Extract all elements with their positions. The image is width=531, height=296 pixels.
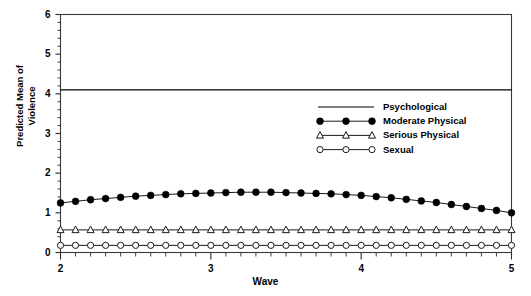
marker-open-circle	[373, 242, 379, 248]
marker-open-triangle	[222, 226, 229, 233]
marker-open-circle	[253, 242, 259, 248]
x-axis-tick-label: 2	[49, 264, 73, 274]
marker-open-triangle	[478, 226, 485, 233]
marker-filled-circle	[418, 198, 425, 205]
marker-open-triangle	[283, 226, 290, 233]
y-axis-tick-label: 4	[29, 89, 51, 99]
x-axis-tick-label: 3	[199, 264, 223, 274]
marker-open-triangle	[508, 226, 515, 233]
marker-filled-circle	[508, 209, 515, 216]
marker-open-triangle	[448, 226, 455, 233]
marker-filled-circle	[192, 190, 199, 197]
marker-open-circle	[178, 242, 184, 248]
marker-filled-circle	[369, 118, 376, 125]
plot-area	[0, 0, 531, 296]
marker-open-triangle	[463, 226, 470, 233]
marker-filled-circle	[373, 193, 380, 200]
marker-open-triangle	[328, 226, 335, 233]
marker-filled-circle	[403, 196, 410, 203]
marker-open-circle	[268, 242, 274, 248]
series-moderate-physical	[57, 189, 515, 216]
marker-open-circle	[478, 242, 484, 248]
marker-filled-circle	[388, 194, 395, 201]
marker-open-triangle	[343, 226, 350, 233]
marker-open-circle	[388, 242, 394, 248]
marker-filled-circle	[298, 190, 305, 197]
marker-open-circle	[508, 242, 514, 248]
marker-open-circle	[448, 242, 454, 248]
marker-filled-circle	[317, 118, 324, 125]
marker-open-circle	[103, 242, 109, 248]
legend-label: Serious Physical	[383, 129, 459, 140]
marker-open-triangle	[132, 226, 139, 233]
marker-filled-circle	[448, 201, 455, 208]
marker-filled-circle	[207, 190, 214, 197]
marker-open-triangle	[207, 226, 214, 233]
marker-open-circle	[298, 242, 304, 248]
legend-label: Moderate Physical	[383, 115, 466, 126]
series-serious-physical	[57, 226, 515, 233]
marker-open-circle	[418, 242, 424, 248]
marker-open-triangle	[373, 226, 380, 233]
legend-item-moderate-physical	[317, 118, 376, 125]
marker-open-circle	[208, 242, 214, 248]
marker-open-triangle	[317, 132, 324, 139]
y-axis-tick-label: 0	[29, 248, 51, 258]
legend-label: Psychological	[383, 101, 447, 112]
marker-filled-circle	[72, 198, 79, 205]
marker-open-circle	[57, 242, 63, 248]
marker-filled-circle	[102, 195, 109, 202]
marker-open-circle	[163, 242, 169, 248]
marker-open-circle	[283, 242, 289, 248]
marker-filled-circle	[222, 189, 229, 196]
legend-item-sexual	[317, 147, 375, 153]
marker-filled-circle	[343, 191, 350, 198]
marker-open-circle	[493, 242, 499, 248]
legend-label: Sexual	[383, 144, 414, 155]
marker-open-triangle	[298, 226, 305, 233]
marker-open-triangle	[493, 226, 500, 233]
marker-open-triangle	[102, 226, 109, 233]
marker-open-triangle	[57, 226, 64, 233]
x-axis-tick-label: 4	[349, 264, 373, 274]
y-axis-tick-label: 1	[29, 208, 51, 218]
marker-filled-circle	[147, 192, 154, 199]
marker-open-circle	[433, 242, 439, 248]
marker-open-circle	[313, 242, 319, 248]
marker-open-triangle	[267, 226, 274, 233]
marker-open-circle	[148, 242, 154, 248]
marker-filled-circle	[238, 189, 245, 196]
marker-filled-circle	[253, 189, 260, 196]
marker-filled-circle	[493, 207, 500, 214]
marker-open-circle	[343, 242, 349, 248]
marker-open-triangle	[343, 132, 350, 139]
marker-filled-circle	[283, 189, 290, 196]
marker-filled-circle	[268, 189, 275, 196]
marker-open-circle	[238, 242, 244, 248]
marker-filled-circle	[328, 190, 335, 197]
marker-filled-circle	[358, 192, 365, 199]
marker-open-triangle	[418, 226, 425, 233]
marker-open-circle	[223, 242, 229, 248]
marker-open-triangle	[72, 226, 79, 233]
marker-open-triangle	[117, 226, 124, 233]
marker-open-circle	[369, 147, 375, 153]
marker-open-circle	[118, 242, 124, 248]
marker-filled-circle	[177, 190, 184, 197]
marker-open-circle	[358, 242, 364, 248]
marker-open-triangle	[87, 226, 94, 233]
y-axis-tick-label: 5	[29, 49, 51, 59]
marker-open-triangle	[177, 226, 184, 233]
marker-open-circle	[133, 242, 139, 248]
marker-open-triangle	[192, 226, 199, 233]
marker-filled-circle	[162, 191, 169, 198]
x-axis-tick-label: 5	[500, 264, 524, 274]
violence-trajectory-chart: Predicted Mean of Violence Wave 01234562…	[0, 0, 531, 296]
marker-filled-circle	[343, 118, 350, 125]
marker-filled-circle	[313, 190, 320, 197]
marker-open-triangle	[388, 226, 395, 233]
marker-open-circle	[328, 242, 334, 248]
marker-open-triangle	[252, 226, 259, 233]
marker-open-triangle	[162, 226, 169, 233]
legend-item-serious-physical	[317, 132, 376, 139]
